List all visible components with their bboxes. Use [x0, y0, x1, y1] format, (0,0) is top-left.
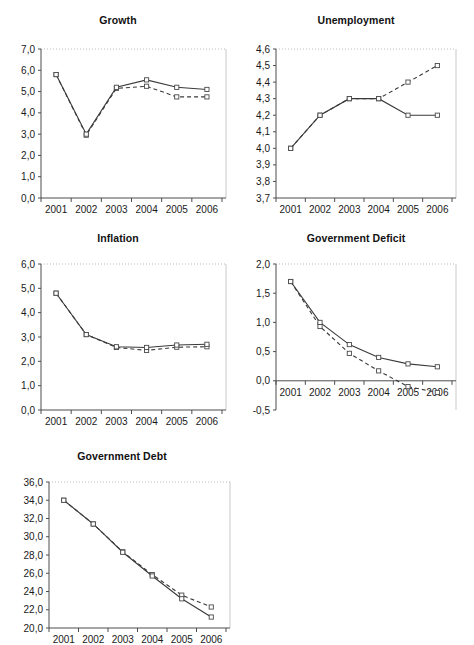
x-tick-label: 2003 [105, 416, 128, 427]
chart-canvas: 3,73,83,94,04,14,24,34,44,54,62001200220… [240, 14, 472, 214]
y-tick-label: 22,0 [24, 604, 44, 615]
y-tick-label: 3,9 [256, 159, 270, 170]
series-line-dashed [56, 293, 207, 350]
x-tick-label: 2002 [75, 204, 98, 215]
x-tick-label: 2004 [368, 387, 391, 398]
chart-panel-government-debt: Government Debt20,022,024,026,028,030,03… [4, 450, 240, 645]
chart-canvas: 0,01,02,03,04,05,06,07,02001200220032004… [4, 14, 232, 214]
data-point-marker [406, 113, 410, 117]
x-tick-label: 2004 [141, 634, 164, 645]
x-tick-label: 2002 [309, 204, 332, 215]
chart-panel-growth: Growth0,01,02,03,04,05,06,07,02001200220… [4, 14, 232, 214]
x-tick-label: 2002 [309, 387, 332, 398]
data-point-marker [84, 132, 88, 136]
y-tick-label: 1,5 [256, 288, 270, 299]
x-tick-label: 2004 [135, 416, 158, 427]
series-line-dashed [64, 500, 212, 607]
data-point-marker [62, 498, 66, 502]
data-point-marker [175, 343, 179, 347]
y-tick-label: 34,0 [24, 495, 44, 506]
y-tick-label: 2,0 [21, 356, 35, 367]
data-point-marker [175, 85, 179, 89]
y-tick-label: 1,0 [256, 317, 270, 328]
chart-canvas: -0,50,00,51,01,52,0200120022003200420052… [240, 232, 472, 428]
y-tick-label: 2,0 [256, 259, 270, 270]
data-point-marker [209, 615, 213, 619]
chart-title: Growth [4, 14, 232, 26]
x-tick-label: 2002 [82, 634, 105, 645]
x-tick-label: 2004 [368, 204, 391, 215]
y-tick-label: 3,0 [21, 129, 35, 140]
y-tick-label: 4,3 [256, 93, 270, 104]
data-point-marker [318, 324, 322, 328]
chart-canvas: 20,022,024,026,028,030,032,034,036,02001… [4, 450, 240, 645]
y-tick-label: 3,7 [256, 193, 270, 204]
series-line-dashed [291, 282, 438, 393]
data-point-marker [347, 342, 351, 346]
chart-panel-government-deficit: Government Deficit-0,50,00,51,01,52,0200… [240, 232, 472, 428]
x-tick-label: 2001 [280, 204, 303, 215]
series-line-solid [56, 75, 207, 135]
data-point-marker [435, 63, 439, 67]
data-point-marker [144, 345, 148, 349]
y-tick-label: 7,0 [21, 44, 35, 55]
y-tick-label: 4,0 [256, 143, 270, 154]
y-tick-label: 2,0 [21, 150, 35, 161]
x-tick-label: 2001 [45, 204, 68, 215]
y-tick-label: 4,2 [256, 110, 270, 121]
data-point-marker [318, 320, 322, 324]
data-point-marker [54, 72, 58, 76]
x-tick-label: 2003 [338, 204, 361, 215]
data-point-marker [150, 574, 154, 578]
data-point-marker [209, 605, 213, 609]
data-point-marker [318, 113, 322, 117]
data-point-marker [114, 85, 118, 89]
y-tick-label: 30,0 [24, 531, 44, 542]
chart-title: Government Debt [4, 450, 240, 462]
chart-panel-unemployment: Unemployment3,73,83,94,04,14,24,34,44,54… [240, 14, 472, 214]
x-tick-label: 2002 [75, 416, 98, 427]
data-point-marker [91, 522, 95, 526]
data-point-marker [175, 95, 179, 99]
y-tick-label: -0,5 [253, 405, 271, 416]
data-point-marker [406, 385, 410, 389]
x-tick-label: 2006 [196, 416, 219, 427]
y-tick-label: 0,5 [256, 346, 270, 357]
y-tick-label: 20,0 [24, 623, 44, 634]
y-tick-label: 32,0 [24, 513, 44, 524]
y-tick-label: 26,0 [24, 568, 44, 579]
chart-panel-inflation: Inflation0,01,02,03,04,05,06,02001200220… [4, 232, 232, 428]
x-tick-label: 2001 [53, 634, 76, 645]
x-tick-label: 2001 [45, 416, 68, 427]
data-point-marker [144, 84, 148, 88]
y-tick-label: 1,0 [21, 380, 35, 391]
x-tick-label: 2005 [171, 634, 194, 645]
chart-title: Government Deficit [240, 232, 472, 244]
data-point-marker [205, 95, 209, 99]
y-tick-label: 4,6 [256, 44, 270, 55]
x-tick-label: 2005 [166, 416, 189, 427]
y-tick-label: 36,0 [24, 477, 44, 488]
y-tick-label: 5,0 [21, 283, 35, 294]
chart-title: Inflation [4, 232, 232, 244]
y-tick-label: 24,0 [24, 586, 44, 597]
data-point-marker [289, 279, 293, 283]
data-point-marker [377, 355, 381, 359]
y-tick-label: 6,0 [21, 65, 35, 76]
data-point-marker [205, 87, 209, 91]
data-point-marker [114, 345, 118, 349]
series-line-solid [291, 282, 438, 367]
x-tick-label: 2006 [196, 204, 219, 215]
x-tick-label: 2005 [166, 204, 189, 215]
y-tick-label: 4,1 [256, 126, 270, 137]
data-point-marker [435, 365, 439, 369]
data-point-marker [347, 351, 351, 355]
y-tick-label: 4,4 [256, 77, 270, 88]
y-tick-label: 4,0 [21, 107, 35, 118]
figure-board: Growth0,01,02,03,04,05,06,07,02001200220… [0, 0, 474, 645]
chart-title: Unemployment [240, 14, 472, 26]
y-tick-label: 6,0 [21, 259, 35, 270]
data-point-marker [289, 146, 293, 150]
data-point-marker [84, 332, 88, 336]
x-tick-label: 2003 [112, 634, 135, 645]
